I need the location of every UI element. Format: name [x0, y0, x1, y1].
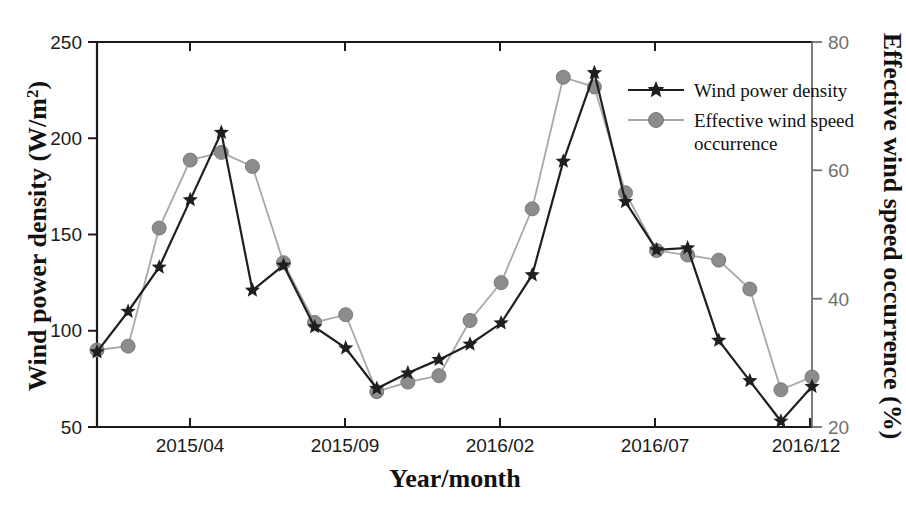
data-point-star [183, 192, 198, 206]
data-point-star [711, 332, 726, 346]
data-point-circle [463, 313, 477, 327]
data-point-circle [183, 153, 197, 167]
svg-text:2016/07: 2016/07 [621, 435, 690, 456]
data-point-circle [245, 159, 259, 173]
data-point-circle [494, 276, 508, 290]
data-point-circle [525, 202, 539, 216]
y-axis-left-ticks [88, 42, 97, 427]
data-point-circle [401, 375, 415, 389]
svg-text:80: 80 [828, 32, 849, 53]
data-point-star [556, 153, 571, 167]
data-point-star [245, 282, 260, 296]
svg-text:60: 60 [828, 160, 849, 181]
svg-text:200: 200 [50, 128, 82, 149]
data-point-star [338, 340, 353, 354]
data-point-star [462, 336, 477, 350]
y-axis-left-ticklabels: 250 200 150 100 50 [50, 32, 82, 438]
svg-text:2016/12: 2016/12 [772, 435, 841, 456]
data-point-star [525, 267, 540, 281]
x-axis-ticklabels: 2015/04 2015/09 2016/02 2016/07 2016/12 [156, 435, 841, 456]
svg-text:150: 150 [50, 224, 82, 245]
y-axis-left-title: Wind power density (W/m2) [23, 81, 52, 391]
data-point-circle [556, 70, 570, 84]
legend-circle-icon [649, 113, 664, 128]
data-point-circle [121, 339, 135, 353]
data-point-star [431, 352, 446, 366]
svg-text:40: 40 [828, 289, 849, 310]
data-point-star [152, 259, 167, 273]
data-point-circle [432, 369, 446, 383]
y-axis-right-title: Effective wind speed occurrence (%) [878, 33, 906, 440]
svg-text:2015/09: 2015/09 [311, 435, 380, 456]
chart-figure: Wind power density (W/m2) Effective wind… [0, 0, 906, 511]
chart-legend: Wind power density Effective wind speed … [628, 80, 855, 154]
legend-star-icon [647, 81, 664, 97]
svg-text:50: 50 [61, 417, 82, 438]
data-point-circle [339, 308, 353, 322]
legend-label-effective-wind-speed-line1: Effective wind speed [694, 110, 855, 131]
legend-label-wind-power-density: Wind power density [694, 80, 848, 101]
svg-text:2016/02: 2016/02 [466, 435, 535, 456]
line-chart: Wind power density (W/m2) Effective wind… [0, 0, 906, 511]
data-point-circle [774, 383, 788, 397]
svg-text:2015/04: 2015/04 [156, 435, 225, 456]
svg-text:100: 100 [50, 320, 82, 341]
x-axis-title: Year/month [389, 464, 521, 493]
data-point-circle [152, 221, 166, 235]
data-point-circle [712, 253, 726, 267]
legend-label-effective-wind-speed-line2: occurrence [694, 133, 777, 154]
data-point-circle [743, 282, 757, 296]
svg-text:250: 250 [50, 32, 82, 53]
